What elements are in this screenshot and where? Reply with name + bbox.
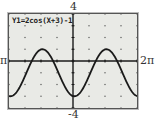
calculator-graph-screen: Y1=2cos(X+3)-1 — [8, 13, 138, 109]
equation-label: Y1=2cos(X+3)-1 — [12, 16, 72, 25]
ymax-label: 4 — [70, 1, 77, 12]
ymin-label: -4 — [68, 109, 79, 120]
graph-plot — [9, 14, 137, 108]
xmax-label: 2π — [140, 55, 154, 66]
xmin-label: π — [0, 55, 7, 66]
